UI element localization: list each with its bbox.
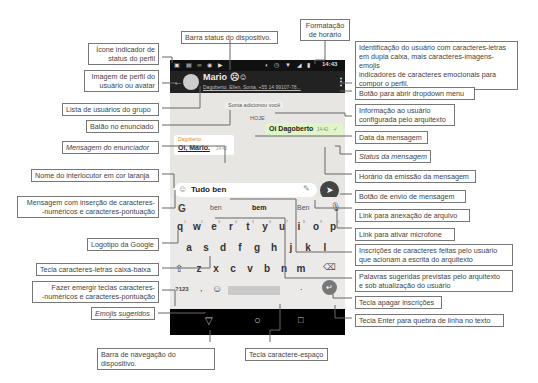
attach-icon[interactable]: ✎ [303, 184, 310, 193]
message-status-icon: ✓ [333, 125, 338, 132]
back-arrow-icon[interactable]: ← [173, 76, 183, 87]
label-line: Mensagem com inserção de caracteres- [21, 198, 155, 207]
label-sender-message: Mensagem do enunciador [62, 141, 159, 154]
keyboard: G ben bem Ben 🎙 q1w2e3r4t5y6u7i8o9p0asdf… [170, 197, 345, 309]
label-avatar: Imagem de perfil dousuário ou avatar [84, 70, 159, 92]
send-icon: ➤ [326, 185, 334, 195]
system-info: Sonia adicionou você [225, 102, 283, 108]
microphone-icon[interactable]: 🎙 [330, 202, 341, 212]
key-g[interactable]: g [250, 242, 264, 253]
suggestion-2[interactable]: bem [252, 204, 266, 211]
key-hint: 7 [286, 220, 288, 224]
status-bar: ▣ ▤ ∞ ◉ ▶ ◐ ◷ ▼ ◢ ▮ 14:43 [170, 60, 345, 71]
incoming-text: Oi, Mário. [178, 144, 210, 151]
label-line: Formatação [304, 21, 346, 30]
key-k[interactable]: k [301, 242, 315, 253]
label-attach: Link para anexação de arquivo [355, 209, 470, 222]
key-hint: 8 [303, 220, 305, 224]
label-dropdown: Botão para abrir dropdown menu [355, 87, 475, 100]
label-time-format: Formataçãode horário [300, 19, 350, 41]
label-line: e sob atualização do usuário [359, 281, 509, 290]
outgoing-text: Oi Dagoberto [269, 125, 313, 132]
label-nav-bar: Barra de navegação do dispositivo. [97, 348, 215, 370]
key-hint: 2 [201, 220, 203, 224]
outgoing-time: 14:42 [317, 127, 328, 132]
key-hint: 4 [235, 220, 237, 224]
key-l[interactable]: l [318, 242, 332, 253]
key-c[interactable]: c [226, 263, 240, 274]
label-mic: Link para ativar microfone [355, 228, 455, 241]
key-x[interactable]: x [209, 263, 223, 274]
message-text: Tudo ben [191, 185, 226, 194]
emoji-key-icon[interactable]: ☺ [212, 283, 222, 294]
notification-icons: ▣ ▤ ∞ ◉ ▶ [174, 61, 225, 68]
label-enter: Tecla Enter para quebra de linha no text… [355, 314, 504, 327]
label-line: Ícone indicador de [92, 45, 155, 54]
back-nav-icon[interactable]: ▽ [205, 315, 213, 326]
label-line: Identificação do usuário com caracteres-… [359, 43, 514, 52]
key-f[interactable]: f [233, 242, 247, 253]
label-date: Data da mensagem [355, 131, 428, 144]
app-bar: ← Mario ☹☺ Dagoberto, Ellen, Sonia, +55 … [170, 71, 345, 93]
label-suggested-words: Palavras sugeridas previstas pelo arquit… [355, 270, 513, 292]
label-line: Inscrições de caracteres feitas pelo usu… [359, 246, 509, 255]
home-nav-icon[interactable]: ○ [254, 314, 261, 326]
label-line: em dupla caixa, mais caracteres-imagens-… [359, 52, 514, 70]
label-backspace: Tecla apagar inscrições [355, 296, 442, 309]
message-input[interactable]: ☺ Tudo ben ✎ [174, 183, 317, 197]
key-z[interactable]: z [192, 263, 206, 274]
label-msg-status: Status da mensagem [355, 150, 431, 163]
key-v[interactable]: v [243, 263, 257, 274]
key-a[interactable]: a [182, 242, 196, 253]
label-status-bar: Barra status do dispositivo. [181, 31, 278, 44]
key-n[interactable]: n [277, 263, 291, 274]
key-j[interactable]: j [284, 242, 298, 253]
label-line: Informação ao usuário [359, 106, 451, 115]
key-hint: 5 [252, 220, 254, 224]
label-inscriptions: Inscrições de caracteres feitas pelo usu… [355, 244, 513, 266]
enter-key[interactable]: ↵ [322, 280, 337, 295]
key-d[interactable]: d [216, 242, 230, 253]
label-line: de horário [304, 30, 346, 39]
label-emojis: Emojis sugeridos [91, 307, 155, 320]
emoji-icons: ☹☺ [230, 72, 248, 82]
avatar[interactable] [183, 74, 199, 90]
clock: 14:43 [322, 61, 337, 67]
label-status-icon: Ícone indicador destatus do perfil [88, 43, 159, 65]
space-key[interactable] [228, 286, 280, 295]
backspace-key[interactable]: ⌫ [323, 262, 336, 272]
label-lowercase-key: Tecla caracteres-letras caixa-baixa [36, 263, 159, 276]
symbols-key[interactable]: ?123 [175, 286, 189, 292]
incoming-bubble: Dagoberto Oi, Mário. 14:42 [174, 135, 234, 155]
comma-key[interactable]: , [200, 283, 203, 293]
date-divider: HOJE [250, 115, 265, 121]
google-logo[interactable]: G [178, 203, 186, 214]
label-line: Palavras sugeridas previstas pelo arquit… [359, 272, 509, 281]
navigation-bar: ▽ ○ □ [170, 309, 345, 335]
label-bubble: Balão no enunciado [86, 120, 159, 133]
recents-nav-icon[interactable]: □ [298, 315, 303, 325]
label-line: Imagem de perfil do [88, 72, 155, 81]
overflow-menu-icon[interactable]: ⋮ [336, 76, 345, 87]
title-text: Mario [203, 72, 227, 82]
suggestion-3[interactable]: Ben [297, 204, 309, 211]
key-h[interactable]: h [267, 242, 281, 253]
shift-key[interactable]: ⇧ [175, 263, 183, 274]
label-line: -numéricos e caracteres-pontuação [21, 207, 155, 216]
emoji-button-icon[interactable]: ☺ [178, 184, 187, 194]
key-hint: 1 [184, 220, 186, 224]
label-line: Fazer emergir teclas caracteres- [36, 283, 155, 292]
label-message-chars: Mensagem com inserção de caracteres--num… [17, 196, 159, 218]
key-hint: 6 [269, 220, 271, 224]
group-members: Dagoberto, Ellen, Sonia, +55 14 99107-78… [203, 84, 301, 90]
phone-screen: ▣ ▤ ∞ ◉ ▶ ◐ ◷ ▼ ◢ ▮ 14:43 ← Mario ☹☺ Dag… [170, 60, 345, 335]
key-b[interactable]: b [260, 263, 274, 274]
label-interlocutor-name: Nome do interlocutor em cor laranja [31, 169, 159, 182]
label-space-key: Tecla caractere-espaço [245, 348, 328, 361]
key-hint: 3 [218, 220, 220, 224]
suggestion-1[interactable]: ben [210, 204, 222, 211]
period-key[interactable]: . [300, 282, 303, 292]
key-m[interactable]: m [294, 263, 308, 274]
chat-title[interactable]: Mario ☹☺ [203, 72, 248, 82]
key-s[interactable]: s [199, 242, 213, 253]
